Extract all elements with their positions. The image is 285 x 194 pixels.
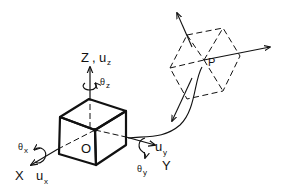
point-cube-arrows — [172, 13, 270, 121]
svg-text:θ: θ — [100, 77, 105, 87]
theta-x-rotation-icon — [34, 148, 46, 163]
svg-text:z: z — [106, 81, 110, 90]
svg-text:θ: θ — [18, 142, 23, 152]
svg-text:u: u — [99, 50, 106, 65]
svg-text:,: , — [92, 50, 96, 65]
point-label: P — [208, 56, 215, 68]
theta-z-label: θ z — [100, 77, 110, 90]
svg-text:x: x — [24, 146, 28, 155]
coordinate-diagram: Z , u z θ z O P θ x X u x u y Y θ y — [0, 0, 285, 194]
y-axis-label: Y — [162, 158, 171, 173]
u-x-label: u x — [36, 168, 48, 186]
theta-y-label: θ y — [137, 164, 147, 177]
origin-cube — [59, 99, 126, 165]
svg-text:u: u — [155, 139, 162, 154]
svg-text:z: z — [107, 58, 111, 67]
x-axis-label: X — [15, 168, 24, 183]
origin-label: O — [81, 141, 91, 156]
u-y-label: u y — [155, 139, 167, 157]
z-axis-label: Z , u z — [81, 50, 111, 67]
svg-text:x: x — [44, 177, 48, 186]
theta-x-label: θ x — [18, 142, 28, 155]
svg-text:y: y — [163, 148, 167, 157]
svg-text:u: u — [36, 168, 43, 183]
svg-text:θ: θ — [137, 164, 142, 174]
svg-text:Z: Z — [81, 50, 89, 65]
connecting-curve — [128, 67, 202, 138]
point-cube — [170, 28, 240, 99]
svg-text:y: y — [143, 168, 147, 177]
